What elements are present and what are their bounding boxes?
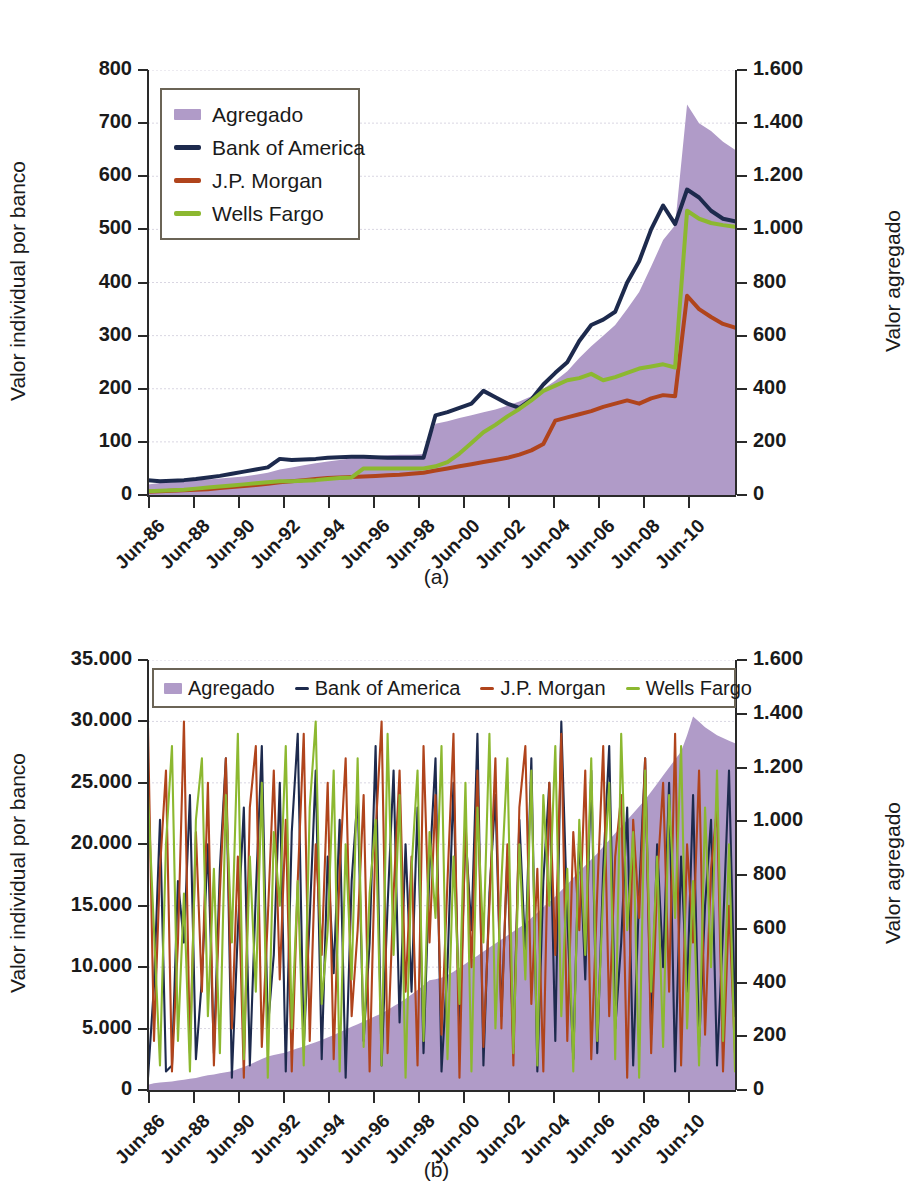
x-tick bbox=[508, 497, 510, 508]
x-tick bbox=[238, 497, 240, 508]
legend-label-aggregate: Agregado bbox=[212, 103, 303, 127]
y2-tick-label: 0 bbox=[753, 1077, 764, 1100]
y2-tick bbox=[737, 767, 747, 769]
legend-item-jp-morgan[interactable]: J.P. Morgan bbox=[480, 673, 605, 703]
y-tick bbox=[138, 843, 148, 845]
y2-tick-label: 200 bbox=[753, 1023, 786, 1046]
y-tick-label: 500 bbox=[22, 216, 132, 239]
y2-tick bbox=[737, 713, 747, 715]
bottom-axis-line bbox=[147, 495, 736, 497]
legend-item-jp-morgan[interactable]: J.P. Morgan bbox=[174, 164, 344, 197]
left-axis-title: Valor individual por banco bbox=[6, 743, 30, 1003]
panel-a: 010020030040050060070080002004006008001.… bbox=[0, 0, 873, 600]
legend-a[interactable]: AgregadoBank of AmericaJ.P. MorganWells … bbox=[160, 88, 360, 240]
y2-tick bbox=[737, 1035, 747, 1037]
y-tick bbox=[138, 175, 148, 177]
y2-tick bbox=[737, 820, 747, 822]
x-tick bbox=[328, 497, 330, 508]
panel-b: 05.00010.00015.00020.00025.00030.00035.0… bbox=[0, 600, 873, 1202]
y2-tick-label: 600 bbox=[753, 323, 786, 346]
y2-tick-label: 1.200 bbox=[753, 163, 803, 186]
x-tick bbox=[283, 1092, 285, 1103]
x-tick bbox=[598, 1092, 600, 1103]
y2-tick bbox=[737, 122, 747, 124]
legend-item-bank-of-america[interactable]: Bank of America bbox=[174, 131, 344, 164]
y-tick bbox=[138, 494, 148, 496]
x-tick bbox=[463, 1092, 465, 1103]
x-tick bbox=[463, 497, 465, 508]
y-tick bbox=[138, 1028, 148, 1030]
y2-tick bbox=[737, 175, 747, 177]
x-tick bbox=[643, 1092, 645, 1103]
y-tick-label: 5.000 bbox=[22, 1016, 132, 1039]
y-tick-label: 200 bbox=[22, 376, 132, 399]
y-tick bbox=[138, 905, 148, 907]
y2-tick-label: 400 bbox=[753, 970, 786, 993]
y-tick bbox=[138, 282, 148, 284]
y2-tick-label: 600 bbox=[753, 916, 786, 939]
y-tick bbox=[138, 335, 148, 337]
y-tick bbox=[138, 441, 148, 443]
y2-tick bbox=[737, 388, 747, 390]
y-tick-label: 700 bbox=[22, 110, 132, 133]
y2-tick bbox=[737, 874, 747, 876]
y2-tick-label: 1.400 bbox=[753, 701, 803, 724]
bottom-axis-line bbox=[147, 1090, 736, 1092]
legend-b[interactable]: AgregadoBank of AmericaJ.P. MorganWells … bbox=[152, 668, 736, 708]
x-tick bbox=[688, 1092, 690, 1103]
y2-tick bbox=[737, 282, 747, 284]
legend-label-wells-fargo: Wells Fargo bbox=[646, 677, 752, 700]
y-tick bbox=[138, 659, 148, 661]
legend-swatch-bank-of-america-icon bbox=[174, 145, 201, 150]
y2-tick-label: 1.600 bbox=[753, 647, 803, 670]
y-tick-label: 30.000 bbox=[22, 708, 132, 731]
legend-label-jp-morgan: J.P. Morgan bbox=[500, 677, 605, 700]
y-tick-label: 25.000 bbox=[22, 770, 132, 793]
y-tick bbox=[138, 966, 148, 968]
legend-label-wells-fargo: Wells Fargo bbox=[212, 202, 324, 226]
legend-label-bank-of-america: Bank of America bbox=[212, 136, 365, 160]
y-tick-label: 800 bbox=[22, 57, 132, 80]
y2-tick-label: 1.000 bbox=[753, 808, 803, 831]
y-tick bbox=[138, 122, 148, 124]
y2-tick bbox=[737, 441, 747, 443]
legend-item-aggregate[interactable]: Agregado bbox=[164, 673, 275, 703]
legend-swatch-aggregate-icon bbox=[164, 683, 182, 694]
legend-label-bank-of-america: Bank of America bbox=[315, 677, 461, 700]
y2-tick-label: 1.600 bbox=[753, 57, 803, 80]
x-tick bbox=[598, 497, 600, 508]
legend-item-bank-of-america[interactable]: Bank of America bbox=[295, 673, 461, 703]
legend-item-aggregate[interactable]: Agregado bbox=[174, 98, 344, 131]
legend-label-aggregate: Agregado bbox=[188, 677, 275, 700]
legend-swatch-wells-fargo-icon bbox=[626, 687, 640, 690]
y-tick-label: 100 bbox=[22, 429, 132, 452]
y-tick bbox=[138, 69, 148, 71]
y-tick bbox=[138, 228, 148, 230]
y-tick bbox=[138, 720, 148, 722]
y2-tick-label: 1.000 bbox=[753, 216, 803, 239]
y2-tick bbox=[737, 659, 747, 661]
y2-tick-label: 400 bbox=[753, 376, 786, 399]
y2-tick bbox=[737, 494, 747, 496]
y-tick bbox=[138, 388, 148, 390]
y2-tick-label: 800 bbox=[753, 862, 786, 885]
x-tick bbox=[643, 497, 645, 508]
x-tick bbox=[553, 497, 555, 508]
y2-tick bbox=[737, 928, 747, 930]
x-tick bbox=[418, 1092, 420, 1103]
y2-tick-label: 0 bbox=[753, 482, 764, 505]
y2-tick bbox=[737, 1089, 747, 1091]
y-tick-label: 300 bbox=[22, 323, 132, 346]
x-tick bbox=[553, 1092, 555, 1103]
x-tick bbox=[238, 1092, 240, 1103]
legend-item-wells-fargo[interactable]: Wells Fargo bbox=[626, 673, 752, 703]
y2-tick bbox=[737, 335, 747, 337]
x-tick bbox=[148, 497, 150, 508]
y-tick-label: 600 bbox=[22, 163, 132, 186]
legend-item-wells-fargo[interactable]: Wells Fargo bbox=[174, 197, 344, 230]
y2-tick-label: 200 bbox=[753, 429, 786, 452]
y-tick-label: 400 bbox=[22, 270, 132, 293]
legend-swatch-wells-fargo-icon bbox=[174, 211, 201, 216]
y2-tick bbox=[737, 228, 747, 230]
right-axis-title: Valor agregado bbox=[881, 181, 905, 381]
